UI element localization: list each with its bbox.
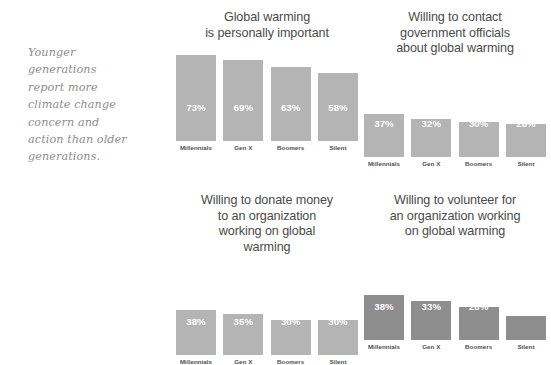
caption-line: action than older	[28, 131, 156, 148]
bar-value-label: 30%	[271, 316, 311, 327]
caption-text: Younger generations report more climate …	[28, 44, 156, 166]
bar-column: 20%Silent	[506, 316, 546, 350]
plot-area: 38%Millennials33%Gen X28%Boomers20%Silen…	[364, 244, 546, 350]
plot-area: 73%Millennials69%Gen X63%Boomers58%Silen…	[176, 45, 358, 151]
category-label: Gen X	[234, 358, 252, 365]
chart-title-line: to an organization	[176, 209, 358, 225]
bar-column: 69%Gen X	[223, 60, 263, 151]
chart-title-line: Global warming	[176, 10, 358, 26]
category-label: Boomers	[277, 358, 304, 365]
bar-value-label: 33%	[411, 301, 451, 312]
bar-value-label: 69%	[223, 102, 263, 113]
chart-title: Global warming is personally important	[176, 10, 358, 41]
category-label: Boomers	[277, 144, 304, 151]
bar-value-label: 28%	[506, 118, 546, 129]
chart-global-warming-important: Global warming is personally important 7…	[176, 10, 358, 151]
bar-value-label: 30%	[318, 316, 358, 327]
bar-column: 28%Boomers	[459, 307, 499, 350]
bar-column: 58%Silent	[318, 73, 358, 151]
chart-title-line: about global warming	[364, 41, 546, 57]
bar-column: 33%Gen X	[411, 301, 451, 350]
bar-value-label: 73%	[176, 102, 216, 113]
bar-value-label: 58%	[318, 102, 358, 113]
bar: 69%	[223, 60, 263, 141]
category-label: Silent	[517, 160, 534, 167]
bar-value-label: 32%	[411, 118, 451, 129]
bar-column: 35%Gen X	[223, 314, 263, 365]
bar-value-label: 37%	[364, 118, 404, 129]
category-label: Millennials	[180, 144, 212, 151]
bar: 28%	[459, 307, 499, 340]
bar: 73%	[176, 55, 216, 141]
plot-area: 37%Millennials32%Gen X30%Boomers28%Silen…	[364, 61, 546, 167]
chart-title: Willing to contact government officials …	[364, 10, 546, 57]
category-label: Silent	[329, 358, 346, 365]
bar-column: 73%Millennials	[176, 55, 216, 151]
bar-value-label: 28%	[459, 301, 499, 312]
bar: 37%	[364, 114, 404, 157]
category-label: Gen X	[422, 343, 440, 350]
category-label: Gen X	[422, 160, 440, 167]
bar-column: 30%Boomers	[271, 320, 311, 365]
bar: 35%	[223, 314, 263, 355]
caption-line: report more	[28, 79, 156, 96]
bar: 58%	[318, 73, 358, 141]
caption-line: concern and	[28, 114, 156, 131]
bar: 30%	[318, 320, 358, 355]
bar-column: 63%Boomers	[271, 67, 311, 151]
category-label: Millennials	[368, 343, 400, 350]
category-label: Silent	[329, 144, 346, 151]
bar-column: 30%Boomers	[459, 122, 499, 167]
category-label: Boomers	[465, 160, 492, 167]
bar-value-label: 38%	[364, 301, 404, 312]
category-label: Millennials	[368, 160, 400, 167]
chart-title-line: Willing to volunteer for	[364, 193, 546, 209]
category-label: Silent	[517, 343, 534, 350]
category-label: Gen X	[234, 144, 252, 151]
bar-column: 32%Gen X	[411, 119, 451, 167]
bar: 63%	[271, 67, 311, 141]
category-label: Boomers	[465, 343, 492, 350]
chart-title-line: Willing to contact	[364, 10, 546, 26]
bar-column: 38%Millennials	[364, 295, 404, 350]
bar-value-label: 35%	[223, 316, 263, 327]
bar: 38%	[364, 295, 404, 340]
bar: 32%	[411, 119, 451, 157]
chart-title-line: an organization working	[364, 209, 546, 225]
chart-donate-money: Willing to donate money to an organizati…	[176, 193, 358, 365]
bar-column: 37%Millennials	[364, 114, 404, 167]
chart-title-line: warming	[176, 240, 358, 256]
chart-contact-officials: Willing to contact government officials …	[364, 10, 546, 167]
caption-line: generations.	[28, 148, 156, 165]
bar: 20%	[506, 316, 546, 340]
bar: 30%	[459, 122, 499, 157]
category-label: Millennials	[180, 358, 212, 365]
chart-title-line: working on global	[176, 224, 358, 240]
chart-title: Willing to donate money to an organizati…	[176, 193, 358, 255]
bar: 28%	[506, 124, 546, 157]
chart-title-line: government officials	[364, 26, 546, 42]
chart-title: Willing to volunteer for an organization…	[364, 193, 546, 240]
bar-value-label: 38%	[176, 316, 216, 327]
caption-line: climate change	[28, 96, 156, 113]
bar: 30%	[271, 320, 311, 355]
bar-column: 28%Silent	[506, 124, 546, 167]
bar-column: 38%Millennials	[176, 310, 216, 365]
bar-column: 30%Silent	[318, 320, 358, 365]
plot-area: 38%Millennials35%Gen X30%Boomers30%Silen…	[176, 259, 358, 365]
bar: 33%	[411, 301, 451, 340]
chart-title-line: on global warming	[364, 224, 546, 240]
bar-value-label: 20%	[506, 301, 546, 312]
chart-title-line: is personally important	[176, 26, 358, 42]
chart-title-line: Willing to donate money	[176, 193, 358, 209]
bar-value-label: 30%	[459, 118, 499, 129]
caption-line: Younger	[28, 44, 156, 61]
bar-value-label: 63%	[271, 102, 311, 113]
caption-line: generations	[28, 61, 156, 78]
chart-volunteer: Willing to volunteer for an organization…	[364, 193, 546, 350]
bar: 38%	[176, 310, 216, 355]
